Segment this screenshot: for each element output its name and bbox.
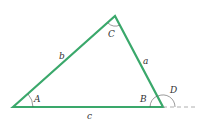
label-c-angle: C	[108, 29, 115, 39]
label-side-b: b	[59, 51, 65, 61]
label-side-a: a	[143, 56, 148, 66]
triangle-diagram: A B C D a b c	[0, 0, 202, 122]
label-side-c: c	[87, 111, 92, 121]
angle-arc-b	[150, 96, 157, 107]
label-a-angle: A	[33, 94, 41, 104]
label-d-angle: D	[169, 85, 177, 95]
label-b-angle: B	[139, 94, 147, 104]
angle-arc-a	[28, 94, 33, 107]
